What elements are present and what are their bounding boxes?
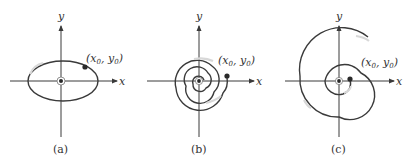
panel-caption: (c)	[331, 143, 346, 156]
panel-b: x y (x0, y0) (b)	[147, 10, 263, 156]
initial-point	[82, 64, 87, 69]
panel-caption: (a)	[53, 143, 68, 156]
phase-portrait-figure: x y (x0, y0) (a) x y (x0, y0) (b)	[0, 0, 408, 164]
panel-caption: (b)	[191, 143, 207, 156]
inward-spiral	[175, 60, 227, 110]
y-axis-label: y	[335, 10, 343, 23]
panel-c: x y (x0, y0) (c)	[285, 10, 403, 156]
initial-point	[347, 76, 352, 81]
equilibrium-point	[197, 79, 201, 83]
x-axis-label: x	[119, 75, 126, 88]
x-axis-label: x	[256, 75, 263, 88]
x-axis-label: x	[396, 75, 403, 88]
equilibrium-point	[337, 79, 341, 83]
initial-point	[224, 73, 229, 78]
equilibrium-point	[59, 79, 63, 83]
y-axis-label: y	[195, 10, 203, 23]
y-axis-label: y	[57, 10, 65, 23]
outward-spiral	[300, 28, 375, 120]
panel-a: x y (x0, y0) (a)	[10, 10, 126, 156]
initial-point-label: (x0, y0)	[86, 52, 123, 66]
initial-point-label: (x0, y0)	[218, 54, 255, 68]
initial-point-label: (x0, y0)	[361, 56, 398, 70]
motion-fade	[344, 86, 351, 93]
